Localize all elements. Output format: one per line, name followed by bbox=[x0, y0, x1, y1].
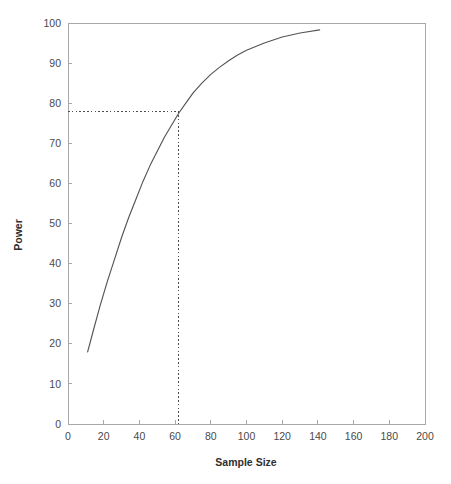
plot-frame bbox=[68, 23, 425, 424]
y-tick-label: 90 bbox=[49, 57, 61, 69]
y-tick-label: 0 bbox=[55, 418, 61, 430]
x-tick-label: 140 bbox=[309, 430, 327, 442]
x-axis-ticks bbox=[68, 420, 425, 424]
x-tick-label: 60 bbox=[169, 430, 181, 442]
y-tick-label: 50 bbox=[49, 217, 61, 229]
power-curve-chart: 0102030405060708090100 02040608010012014… bbox=[0, 0, 451, 484]
x-tick-label: 40 bbox=[134, 430, 146, 442]
x-tick-label: 120 bbox=[273, 430, 291, 442]
y-tick-label: 10 bbox=[49, 378, 61, 390]
y-tick-label: 30 bbox=[49, 297, 61, 309]
y-axis-ticks bbox=[68, 23, 72, 424]
x-tick-label: 180 bbox=[381, 430, 399, 442]
x-tick-label: 100 bbox=[238, 430, 256, 442]
y-axis-tick-labels: 0102030405060708090100 bbox=[43, 17, 61, 430]
reference-crosshair bbox=[68, 111, 179, 424]
x-tick-label: 80 bbox=[205, 430, 217, 442]
x-tick-label: 200 bbox=[416, 430, 434, 442]
y-tick-label: 100 bbox=[43, 17, 61, 29]
power-curve-line bbox=[88, 30, 320, 352]
y-tick-label: 70 bbox=[49, 137, 61, 149]
x-tick-label: 20 bbox=[98, 430, 110, 442]
y-tick-label: 20 bbox=[49, 337, 61, 349]
data-series-group bbox=[88, 30, 320, 352]
y-tick-label: 40 bbox=[49, 257, 61, 269]
y-tick-label: 80 bbox=[49, 97, 61, 109]
y-tick-label: 60 bbox=[49, 177, 61, 189]
chart-canvas: 0102030405060708090100 02040608010012014… bbox=[0, 0, 451, 484]
x-tick-label: 0 bbox=[65, 430, 71, 442]
x-axis-title: Sample Size bbox=[215, 456, 276, 468]
x-axis-tick-labels: 020406080100120140160180200 bbox=[65, 430, 434, 442]
x-tick-label: 160 bbox=[345, 430, 363, 442]
y-axis-title: Power bbox=[12, 219, 24, 251]
